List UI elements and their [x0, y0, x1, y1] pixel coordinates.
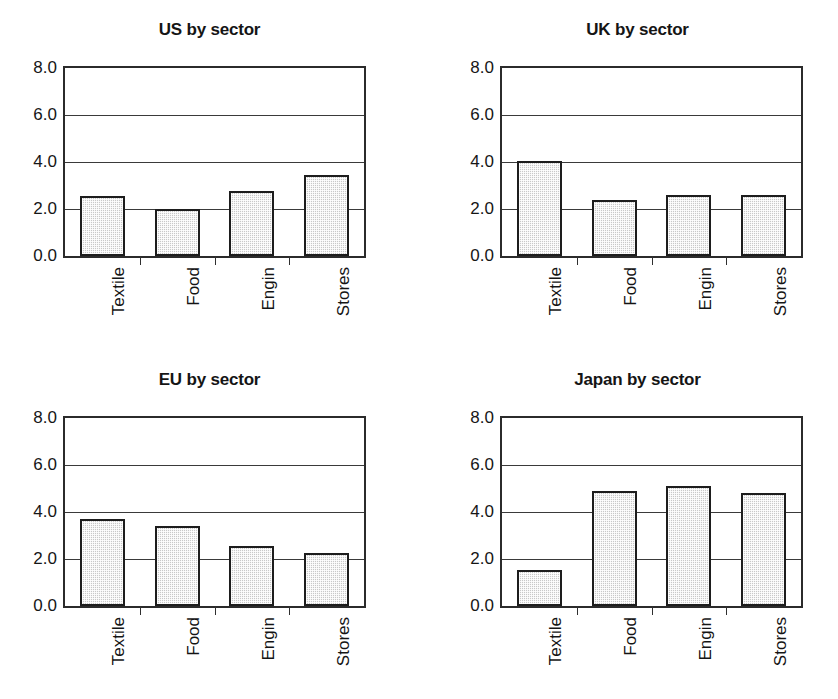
x-axis-tick-label: Engin: [259, 617, 279, 660]
plot-area-us: 0.02.04.06.08.0TextileFoodEnginStores: [63, 66, 366, 258]
x-axis-tick-mark: [652, 606, 653, 615]
bar: [155, 526, 200, 606]
bar: [741, 195, 786, 256]
x-axis-tick-label: Stores: [334, 617, 354, 666]
y-axis-tick-label: 6.0: [33, 105, 57, 125]
bar: [741, 493, 786, 606]
y-axis-tick-label: 6.0: [470, 455, 494, 475]
x-axis-tick-mark: [726, 606, 727, 615]
bar: [80, 196, 125, 256]
x-axis-tick-mark: [652, 256, 653, 265]
y-axis-tick-label: 2.0: [470, 199, 494, 219]
bar: [666, 486, 711, 606]
panel-title-eu: EU by sector: [0, 370, 419, 390]
x-axis-tick-label: Textile: [109, 267, 129, 315]
plot-area-japan: 0.02.04.06.08.0TextileFoodEnginStores: [500, 416, 803, 608]
bar: [592, 200, 637, 256]
x-axis-tick-mark: [289, 256, 290, 265]
bar: [517, 161, 562, 256]
x-axis-tick-label: Stores: [771, 617, 791, 666]
plot-area-uk: 0.02.04.06.08.0TextileFoodEnginStores: [500, 66, 803, 258]
y-axis-tick-label: 2.0: [470, 549, 494, 569]
y-axis-tick-label: 8.0: [33, 408, 57, 428]
panel-title-uk: UK by sector: [419, 20, 838, 40]
y-axis-tick-label: 4.0: [470, 502, 494, 522]
panel-title-japan: Japan by sector: [419, 370, 838, 390]
bar: [592, 491, 637, 606]
y-axis-tick-label: 4.0: [470, 152, 494, 172]
y-axis-tick-label: 0.0: [33, 596, 57, 616]
x-axis-tick-mark: [289, 606, 290, 615]
gridline: [65, 115, 364, 116]
x-axis-tick-label: Stores: [334, 267, 354, 316]
y-axis-tick-label: 4.0: [33, 502, 57, 522]
panel-us: US by sector 0.02.04.06.08.0TextileFoodE…: [0, 0, 419, 349]
panel-japan: Japan by sector 0.02.04.06.08.0TextileFo…: [419, 350, 838, 699]
x-axis-tick-label: Engin: [696, 267, 716, 310]
y-axis-tick-label: 6.0: [33, 455, 57, 475]
x-axis-tick-mark: [577, 606, 578, 615]
x-axis-tick-mark: [726, 256, 727, 265]
panel-eu: EU by sector 0.02.04.06.08.0TextileFoodE…: [0, 350, 419, 699]
y-axis-tick-label: 0.0: [470, 596, 494, 616]
multi-panel-bar-chart-figure: US by sector 0.02.04.06.08.0TextileFoodE…: [0, 0, 838, 699]
x-axis-tick-label: Food: [184, 267, 204, 306]
bar: [229, 191, 274, 256]
x-axis-tick-mark: [215, 256, 216, 265]
bar: [517, 570, 562, 606]
x-axis-tick-mark: [140, 256, 141, 265]
y-axis-tick-label: 4.0: [33, 152, 57, 172]
panel-title-us: US by sector: [0, 20, 419, 40]
x-axis-tick-label: Food: [184, 617, 204, 656]
y-axis-tick-label: 8.0: [470, 58, 494, 78]
gridline: [65, 162, 364, 163]
y-axis-tick-label: 2.0: [33, 199, 57, 219]
x-axis-tick-label: Food: [621, 617, 641, 656]
x-axis-tick-label: Engin: [696, 617, 716, 660]
x-axis-tick-mark: [140, 606, 141, 615]
gridline: [65, 465, 364, 466]
x-axis-tick-label: Textile: [109, 617, 129, 665]
x-axis-tick-label: Stores: [771, 267, 791, 316]
y-axis-tick-label: 8.0: [470, 408, 494, 428]
y-axis-tick-label: 8.0: [33, 58, 57, 78]
x-axis-tick-label: Food: [621, 267, 641, 306]
bar: [666, 195, 711, 256]
plot-area-eu: 0.02.04.06.08.0TextileFoodEnginStores: [63, 416, 366, 608]
y-axis-tick-label: 2.0: [33, 549, 57, 569]
gridline: [502, 115, 801, 116]
bar: [304, 553, 349, 606]
x-axis-tick-label: Engin: [259, 267, 279, 310]
y-axis-tick-label: 0.0: [33, 246, 57, 266]
gridline: [502, 465, 801, 466]
bar: [229, 546, 274, 606]
y-axis-tick-label: 0.0: [470, 246, 494, 266]
x-axis-tick-label: Textile: [546, 267, 566, 315]
bar: [155, 209, 200, 256]
panel-uk: UK by sector 0.02.04.06.08.0TextileFoodE…: [419, 0, 838, 349]
gridline: [65, 512, 364, 513]
y-axis-tick-label: 6.0: [470, 105, 494, 125]
bar: [304, 175, 349, 256]
x-axis-tick-mark: [215, 606, 216, 615]
x-axis-tick-label: Textile: [546, 617, 566, 665]
x-axis-tick-mark: [577, 256, 578, 265]
bar: [80, 519, 125, 606]
